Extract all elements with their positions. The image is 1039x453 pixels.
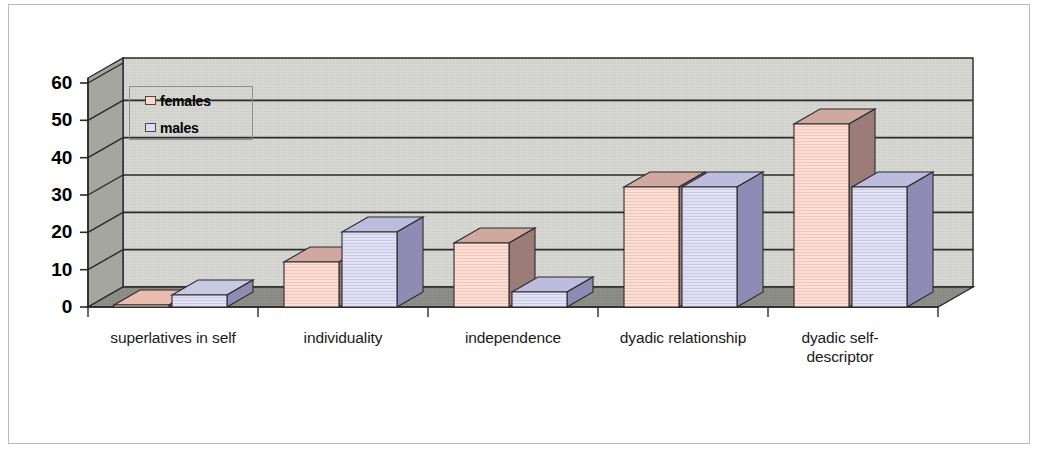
y-tick-label-40: 40 <box>26 147 72 169</box>
legend: females males <box>129 86 253 140</box>
y-tick-label-0: 0 <box>26 296 72 318</box>
x-tick-label-independence: independence <box>428 328 598 347</box>
y-tick-label-60: 60 <box>26 72 72 94</box>
chart-canvas <box>0 0 1039 453</box>
y-tick-label-30: 30 <box>26 184 72 206</box>
legend-label-males: males <box>160 120 199 136</box>
legend-item-females[interactable]: females <box>130 87 252 114</box>
legend-swatch-females-icon <box>145 96 156 105</box>
bar-chart-3d: 60 50 40 30 20 10 0 superlatives in self… <box>0 0 1039 453</box>
y-tick-label-20: 20 <box>26 221 72 243</box>
left-wall <box>88 58 123 307</box>
legend-item-males[interactable]: males <box>130 114 252 141</box>
y-tick-marks <box>80 83 88 307</box>
legend-label-females: females <box>160 93 211 109</box>
x-tick-label-dyadic-self-descriptor: dyadic self-descriptor <box>770 328 910 366</box>
x-tick-label-dyadic-relationship: dyadic relationship <box>598 328 768 347</box>
bar-group-dyadic-relationship <box>624 172 763 307</box>
legend-swatch-males-icon <box>145 123 156 132</box>
x-tick-label-individuality: individuality <box>258 328 428 347</box>
chart-screenshot: 60 50 40 30 20 10 0 superlatives in self… <box>0 0 1039 453</box>
x-tick-marks <box>88 307 938 317</box>
y-tick-label-50: 50 <box>26 109 72 131</box>
x-tick-label-superlatives-in-self: superlatives in self <box>88 328 258 347</box>
y-tick-label-10: 10 <box>26 259 72 281</box>
